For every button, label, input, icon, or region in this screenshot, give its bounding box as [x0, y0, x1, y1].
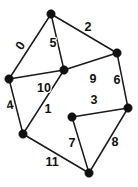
- edge-label-3: 3: [91, 93, 98, 107]
- graph-vertex-inner-top-vertex: [60, 66, 68, 74]
- edge-label-5: 5: [50, 36, 57, 50]
- graph-edge-9: [64, 53, 117, 70]
- edge-label-0: 0: [13, 39, 29, 53]
- cube-graph-figure: 02569104317811: [0, 0, 138, 187]
- graph-vertex-top-vertex: [47, 10, 55, 18]
- edge-label-7: 7: [69, 136, 76, 150]
- edge-label-4: 4: [5, 98, 14, 113]
- vertices-group: [5, 10, 132, 177]
- graph-vertex-bottom-left-vertex: [19, 130, 27, 138]
- edge-label-1: 1: [45, 102, 52, 116]
- graph-vertex-inner-bottom-vertex: [68, 113, 76, 121]
- graph-vertex-left-vertex: [5, 75, 13, 83]
- edge-label-10: 10: [37, 81, 51, 95]
- edge-label-2: 2: [85, 20, 92, 34]
- edge-labels-group: 02569104317811: [5, 20, 120, 169]
- edge-label-11: 11: [45, 155, 58, 169]
- graph-vertex-right-vertex: [124, 104, 132, 112]
- edge-label-6: 6: [114, 73, 121, 87]
- graph-edge-1: [23, 70, 64, 134]
- graph-edge-3: [72, 108, 128, 117]
- graph-vertex-bottom-vertex: [85, 169, 93, 177]
- edge-label-9: 9: [90, 72, 97, 86]
- graph-vertex-upper-right-vertex: [113, 49, 121, 57]
- graph-edge-10: [9, 70, 64, 79]
- graph-canvas: 02569104317811: [0, 0, 138, 187]
- graph-edge-8: [89, 108, 128, 173]
- edge-label-8: 8: [112, 135, 119, 149]
